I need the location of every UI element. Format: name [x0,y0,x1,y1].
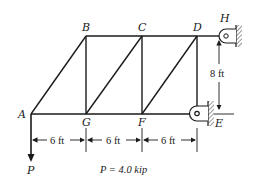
pin-icon [224,34,228,38]
wall-hatch-H [236,25,242,47]
node-label-A: A [17,108,26,121]
roller-support-E [190,101,214,126]
node-label-E: E [214,117,223,130]
load-label: P [26,164,35,177]
node-label-H: H [219,12,230,25]
node-label-B: B [81,21,90,34]
arrow-down-icon [28,154,35,162]
truss-diagram: 8 ft 6 ft 6 ft 6 ft P P = 4.0 kip A G F … [0,0,253,185]
node-label-C: C [138,21,147,34]
node-label-D: D [192,21,202,34]
load-arrow [28,114,35,162]
node-label-F: F [137,116,146,129]
node-label-G: G [82,116,91,129]
pin-support-H [219,25,242,47]
dimension-AG: 6 ft [50,135,64,146]
wall-hatch-E [208,101,214,126]
member-AB [31,36,86,114]
dimension-FE: 6 ft [161,135,175,146]
truss-members [31,36,222,114]
vertical-dimension-label: 8 ft [210,68,224,79]
dimension-GF: 6 ft [106,135,120,146]
roller-icon [195,111,199,115]
member-FD [142,36,197,114]
load-value: P = 4.0 kip [99,164,147,175]
member-GC [86,36,142,114]
